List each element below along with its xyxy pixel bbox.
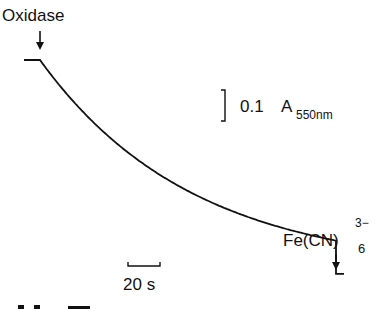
absorbance-scale-unit: A bbox=[281, 97, 293, 116]
oxidase-label: Oxidase bbox=[2, 6, 64, 25]
ferricyanide-subscript: 6 bbox=[358, 241, 365, 256]
caption-fragment bbox=[18, 305, 90, 309]
absorbance-scale-bar bbox=[221, 90, 225, 121]
absorbance-scale-value: 0.1 bbox=[240, 97, 264, 116]
oxidase-arrow-icon bbox=[36, 31, 44, 50]
time-scale-bar bbox=[128, 262, 160, 266]
figure-canvas: Oxidase 0.1 A 550nm Fe(CN) 3− 6 20 s bbox=[0, 0, 375, 309]
ferricyanide-arrow-icon bbox=[332, 254, 340, 270]
absorbance-scale-subscript: 550nm bbox=[296, 108, 333, 122]
time-scale-label: 20 s bbox=[123, 275, 155, 294]
ferricyanide-label: Fe(CN) bbox=[283, 231, 339, 250]
ferricyanide-superscript: 3− bbox=[355, 216, 369, 230]
